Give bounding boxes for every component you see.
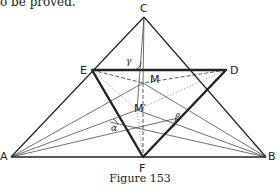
label-C: C — [140, 2, 148, 15]
label-beta: β — [174, 112, 180, 122]
thin-lines — [11, 17, 266, 157]
label-alpha: α — [111, 123, 117, 133]
label-E: E — [80, 64, 87, 77]
geometry-figure: C E D A B F M M′ γ α β — [0, 0, 280, 188]
label-gamma: γ — [126, 56, 132, 66]
label-A: A — [0, 150, 8, 163]
figure-caption: Figure 153 — [0, 172, 280, 185]
label-D: D — [230, 64, 238, 77]
angle-arcs — [113, 62, 176, 128]
label-M: M — [150, 73, 160, 86]
label-B: B — [268, 150, 276, 163]
label-M-prime: M′ — [134, 102, 146, 115]
